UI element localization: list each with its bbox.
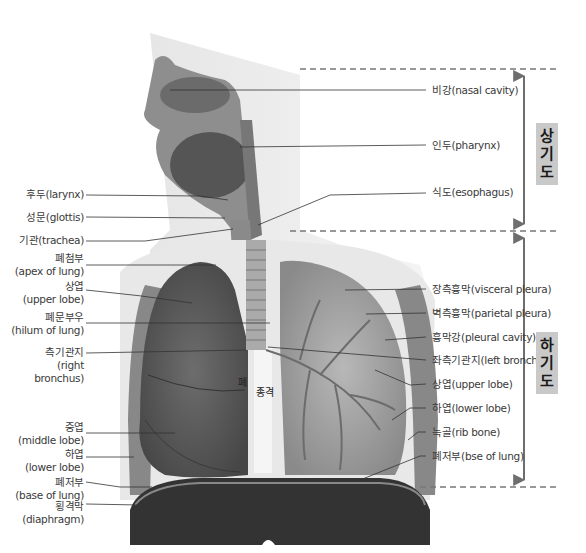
label-diaphragm: 횡격막(diaphragm): [22, 500, 84, 526]
label-lower-lobe-left: 하엽(lower lobe): [432, 402, 511, 415]
label-base-of-lung-right: 폐저부(base of lung): [15, 476, 84, 502]
lung-label: 폐: [238, 374, 247, 389]
label-pleural-cavity: 흉막강(pleural cavity): [432, 331, 536, 344]
label-trachea: 기관(trachea): [19, 234, 84, 247]
torso: [120, 240, 438, 545]
label-right-bronchus: 측기관지(rightbronchus): [34, 346, 84, 385]
label-larynx: 후두(larynx): [26, 188, 84, 201]
label-pharynx: 인두(pharynx): [432, 139, 500, 152]
respiratory-diagram: 폐 종격 후두(larynx) 성문(glottis) 기관(trachea) …: [0, 0, 586, 553]
label-upper-lobe-right: 상엽(upper lobe): [23, 280, 84, 306]
label-upper-lobe-left: 상엽(upper lobe): [432, 378, 513, 391]
label-rib-bone: 늑골(rib bone): [432, 426, 500, 439]
label-left-bronchus: 좌측기관지(left bronchus): [432, 354, 553, 367]
label-middle-lobe: 중엽(middle lobe): [18, 421, 84, 447]
upper-airway-tag: 상 기 도: [536, 123, 558, 185]
label-esophagus: 식도(esophagus): [432, 186, 513, 199]
lower-airway-tag: 하 기 도: [536, 332, 558, 394]
anatomy-illustration: [0, 0, 586, 553]
label-base-of-lung-left: 폐저부(bse of lung): [432, 450, 524, 463]
label-glottis: 성문(glottis): [26, 211, 84, 224]
label-visceral-pleura: 장측흉막(visceral pleura): [432, 283, 551, 296]
label-nasal-cavity: 비강(nasal cavity): [432, 84, 518, 97]
mediastinum-label: 종격: [256, 384, 274, 399]
label-apex-of-lung: 폐첨부(apex of lung): [15, 252, 84, 278]
label-lower-lobe-right: 하엽(lower lobe): [25, 448, 84, 474]
label-hilum: 폐문부우(hilum of lung): [11, 311, 84, 337]
label-parietal-pleura: 벽측흉막(parietal pleura): [432, 307, 551, 320]
